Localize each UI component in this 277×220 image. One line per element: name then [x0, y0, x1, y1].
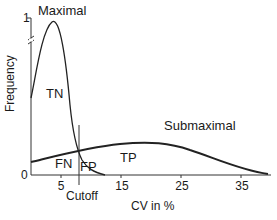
submaximal-label: Submaximal: [164, 120, 236, 132]
y-tick-label-1: 1: [23, 12, 30, 24]
tn-label: TN: [46, 88, 63, 100]
y-tick-label-0: 0: [21, 169, 28, 181]
x-tick-label-15: 15: [115, 180, 128, 192]
tp-label: TP: [120, 152, 137, 164]
fp-label: FP: [80, 161, 97, 173]
y-axis-title: Frequency: [3, 55, 17, 112]
maximal-label: Maximal: [38, 5, 86, 17]
x-tick-label-35: 35: [235, 180, 248, 192]
fn-label: FN: [55, 158, 72, 170]
cutoff-label: Cutoff: [66, 190, 98, 202]
x-tick-label-5: 5: [58, 180, 65, 192]
x-axis-title: CV in %: [131, 200, 174, 212]
maximal-curve: [31, 21, 105, 175]
x-tick-label-25: 25: [175, 180, 188, 192]
